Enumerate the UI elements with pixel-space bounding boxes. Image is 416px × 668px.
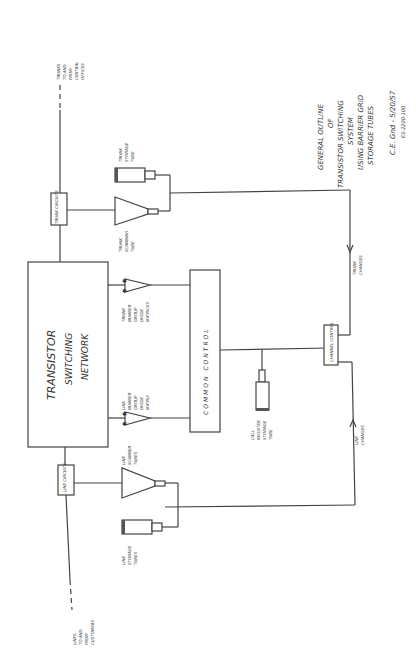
trunk-scanning-tube-label: TRUNK SCANNING TUBE: [118, 231, 135, 252]
trunk-storage-tube: [115, 168, 170, 182]
svg-text:GROUP: GROUP: [133, 395, 138, 410]
line-number-group-diode-matrix: ✱ ✱: [108, 410, 200, 427]
line-storage-tubes-label: LINE STORAGE TUBES: [121, 545, 138, 565]
drawing-number: ES-2200-100: [400, 106, 406, 138]
svg-text:TUBES: TUBES: [133, 551, 138, 565]
star-icon: ✱: [122, 410, 127, 417]
common-control-label: COMMON CONTROL: [202, 327, 209, 415]
svg-text:TO AND: TO AND: [62, 64, 67, 80]
svg-text:OFFICES: OFFICES: [80, 63, 85, 80]
svg-text:SCANNING: SCANNING: [124, 231, 129, 252]
svg-text:SYSTEM: SYSTEM: [347, 117, 355, 145]
line-circuits-box: LINE CIRCUITS: [58, 463, 74, 495]
line-matrix-label: LINE NUMBER GROUP DIODE MATRIX: [121, 392, 150, 410]
svg-text:TO AND: TO AND: [78, 629, 83, 645]
svg-text:TRUNK: TRUNK: [118, 148, 123, 162]
line-storage-tube: [122, 520, 178, 534]
svg-text:LINES: LINES: [72, 633, 77, 645]
svg-text:TRUNK: TRUNK: [352, 261, 357, 275]
channel-control-label: CHANNEL CONTROL: [329, 322, 334, 362]
svg-text:FROM: FROM: [84, 633, 89, 645]
svg-text:NUMBER: NUMBER: [127, 304, 132, 322]
star-icon: ✱: [122, 287, 127, 294]
line-scanner-tube: [122, 468, 178, 498]
svg-text:SCANNER: SCANNER: [127, 445, 132, 465]
line-circuits-label: LINE CIRCUITS: [62, 463, 67, 492]
signature-block: C.E. Gnd - 5/20/57 ES-2200-100: [389, 90, 406, 155]
trunk-storage-tube-label: TRUNK STORAGE TUBE: [118, 142, 135, 162]
svg-text:LINE: LINE: [121, 456, 126, 465]
svg-text:DIODE: DIODE: [139, 397, 144, 410]
svg-text:OF: OF: [327, 117, 335, 128]
svg-text:NUMBER: NUMBER: [127, 392, 132, 410]
signature: C.E. Gnd - 5/20/57: [389, 90, 397, 155]
svg-text:TRUNKS: TRUNKS: [56, 63, 61, 80]
network-label-3: NETWORK: [80, 333, 90, 380]
trunk-matrices-label: TRUNK NUMBER GROUP DIODE MATRICES: [121, 301, 150, 322]
star-icon: ✱: [122, 420, 127, 427]
network-label-1: TRANSISTOR: [45, 330, 58, 400]
star-icon: ✱: [122, 277, 127, 284]
svg-text:CHANGES: CHANGES: [358, 255, 363, 275]
svg-text:STORAGE TUBES: STORAGE TUBES: [367, 105, 375, 165]
svg-text:TUBE: TUBE: [130, 241, 135, 252]
call-register-storage-tube: [256, 349, 269, 411]
transistor-switching-network: TRANSISTOR SWITCHING NETWORK: [28, 262, 108, 447]
title-block: GENERAL OUTLINE OF TRANSISTOR SWITCHING …: [317, 94, 375, 188]
svg-text:STORAGE: STORAGE: [127, 545, 132, 565]
trunk-scanning-tube: [115, 197, 170, 225]
svg-text:CUSTOMERS: CUSTOMERS: [90, 619, 95, 645]
svg-text:GROUP: GROUP: [133, 307, 138, 322]
channel-control-box: CHANNEL CONTROL: [324, 322, 338, 365]
svg-text:USING BARRIER GRID: USING BARRIER GRID: [357, 94, 365, 170]
line-changes-label: LINE CHANGES: [354, 425, 365, 445]
svg-text:CENTRAL: CENTRAL: [74, 62, 79, 81]
lines-external-label: LINES TO AND FROM CUSTOMERS: [72, 619, 95, 645]
trunk-number-group-diode-matrices: ✱ ✱: [108, 277, 200, 294]
line-scanner-tubes-label: LINE SCANNER TUBES: [121, 445, 138, 465]
call-register-label: CALL REGISTER STORAGE TUBE: [250, 420, 273, 440]
svg-text:TUBE: TUBE: [130, 151, 135, 162]
trunk-circuits-box: TRUNK CIRCUITS: [51, 190, 67, 225]
svg-text:MATRIX: MATRIX: [145, 395, 150, 410]
trunk-circuits-label: TRUNK CIRCUITS: [54, 190, 59, 224]
svg-text:CHANGES: CHANGES: [360, 425, 365, 445]
svg-text:LINE: LINE: [121, 401, 126, 410]
svg-text:LINE: LINE: [354, 436, 359, 445]
svg-text:CALL: CALL: [250, 430, 255, 440]
svg-text:STORAGE: STORAGE: [262, 420, 267, 440]
trunk-changes-label: TRUNK CHANGES: [352, 255, 363, 275]
svg-text:TRUNK: TRUNK: [118, 238, 123, 252]
svg-text:TUBE: TUBE: [268, 429, 273, 440]
svg-text:DIODE: DIODE: [139, 309, 144, 322]
svg-text:STORAGE: STORAGE: [124, 142, 129, 162]
svg-text:GENERAL OUTLINE: GENERAL OUTLINE: [317, 104, 325, 170]
svg-text:LINE: LINE: [121, 556, 126, 565]
svg-text:FROM: FROM: [68, 68, 73, 80]
common-control-box: COMMON CONTROL: [190, 270, 220, 432]
svg-text:TRUNK: TRUNK: [121, 308, 126, 322]
svg-text:TRANSISTOR SWITCHING: TRANSISTOR SWITCHING: [337, 100, 345, 188]
svg-text:MATRICES: MATRICES: [145, 301, 150, 322]
svg-text:TUBES: TUBES: [133, 451, 138, 465]
svg-text:REGISTER: REGISTER: [256, 420, 261, 440]
network-label-2: SWITCHING: [64, 333, 74, 385]
trunks-external-label: TRUNKS TO AND FROM CENTRAL OFFICES: [56, 62, 85, 81]
diagram-canvas: TRUNK CIRCUITS TRANSISTOR SWITCHING NETW…: [0, 0, 416, 668]
